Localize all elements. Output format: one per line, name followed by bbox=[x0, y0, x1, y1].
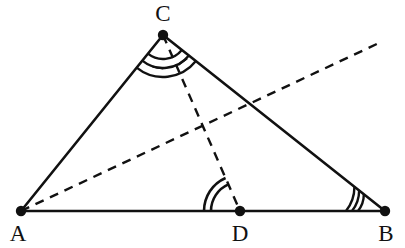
triangle-sides bbox=[21, 35, 385, 211]
vertex-dot-D bbox=[235, 206, 245, 216]
angle-tick-C-right bbox=[178, 58, 187, 65]
vertex-label-D: D bbox=[232, 222, 249, 245]
angle-marks-at-B bbox=[346, 187, 364, 211]
vertex-dot-C bbox=[158, 30, 168, 40]
angle-marks-at-D bbox=[204, 178, 228, 211]
dashed-lines bbox=[21, 35, 381, 211]
vertex-label-C: C bbox=[155, 2, 170, 25]
geometry-diagram: C A D B bbox=[0, 0, 405, 248]
vertex-label-B: B bbox=[378, 222, 393, 245]
angle-arc-C-1 bbox=[148, 50, 182, 59]
geometry-canvas bbox=[0, 0, 405, 248]
vertex-label-A: A bbox=[10, 222, 27, 245]
vertex-dot-B bbox=[380, 206, 390, 216]
vertex-dot-A bbox=[16, 206, 26, 216]
ray-from-A bbox=[21, 42, 381, 211]
